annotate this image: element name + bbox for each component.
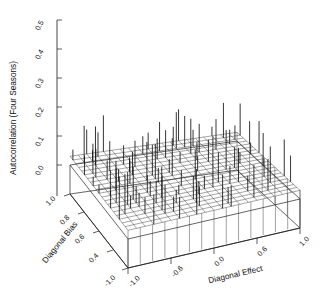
x-tick-label-0: -1.0 [127,274,142,289]
z-tick-label-4: 0.1 [33,135,46,148]
x-tick-label-1: -0.6 [170,264,185,279]
z-tick-label-1: 0.4 [33,48,46,61]
z-axis: 0.5 0.4 0.3 0.2 0.1 0.0 Autocorrelation … [9,19,62,196]
y-tick--1.0 [122,268,128,270]
three-d-plot-svg: 0.5 0.4 0.3 0.2 0.1 0.0 Autocorrelation … [0,0,322,293]
y-tick-0.8 [78,212,84,214]
x-axis-label: Diagonal Effect [207,264,264,285]
x-tick-label-4: 1.0 [297,234,311,248]
z-tick-label-2: 0.3 [33,77,46,90]
x-tick-label-2: 0.0 [212,254,226,268]
y-tick-1.0 [64,194,70,196]
y-tick-label-2: 0.6 [73,232,87,246]
y-axis-label: Diagonal Bias [41,220,80,265]
y-tick-0.4 [107,250,113,252]
figure-canvas: 0.5 0.4 0.3 0.2 0.1 0.0 Autocorrelation … [0,0,322,293]
z-tick-label-3: 0.2 [33,106,46,119]
mesh-line-v [79,141,247,167]
y-tick-label-3: 0.4 [87,251,101,265]
y-tick-label-4: -1.0 [102,273,117,288]
z-tick-label-5: 0.0 [33,164,46,177]
x-tick-label-3: 0.6 [255,244,269,258]
y-tick-label-0: 1.0 [44,194,58,208]
z-axis-label: Autocorrelation (Four Seasons) [9,61,18,175]
y-tick-0.6 [93,231,99,233]
z-tick-label-0: 0.5 [33,19,46,32]
